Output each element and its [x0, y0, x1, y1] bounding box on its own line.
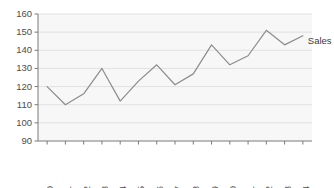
- x-tick-label: 2003: [99, 186, 110, 188]
- x-tick-label: 2005: [135, 186, 146, 188]
- chart-screenshot: 90100110120130140150160 2000200120022003…: [0, 0, 334, 188]
- series-end-label-sales: Sales: [308, 35, 332, 46]
- y-tick-label: 140: [16, 44, 32, 55]
- y-tick-label: 130: [16, 62, 32, 73]
- x-tick-label: 2004: [117, 186, 128, 188]
- x-tick-label: 2001: [62, 186, 73, 188]
- x-tick-label: 2008: [190, 186, 201, 188]
- y-tick-label: 90: [21, 135, 32, 146]
- y-tick-label: 100: [16, 117, 32, 128]
- x-tick-label: 2010: [227, 186, 238, 188]
- x-tick-label: 2000: [44, 186, 55, 188]
- annotations-group: Sales: [308, 35, 332, 46]
- x-tick-label: 2002: [81, 186, 92, 188]
- x-tick-label: 2014: [300, 186, 311, 188]
- sales-line-chart: 90100110120130140150160 2000200120022003…: [0, 0, 334, 188]
- x-tick-label: 2013: [282, 186, 293, 188]
- x-tick-label: 2011: [245, 186, 256, 188]
- y-tick-label: 160: [16, 8, 32, 19]
- x-tick-label: 2007: [172, 186, 183, 188]
- y-tick-label: 150: [16, 26, 32, 37]
- y-tick-label: 120: [16, 81, 32, 92]
- x-axis-tick-labels-group: 2000200120022003200420052006200720082009…: [44, 186, 311, 188]
- x-tick-label: 2006: [154, 186, 165, 188]
- x-tick-label: 2009: [209, 186, 220, 188]
- x-tick-label: 2012: [263, 186, 274, 188]
- y-tick-label: 110: [17, 99, 32, 110]
- plot-area-background: [38, 14, 312, 141]
